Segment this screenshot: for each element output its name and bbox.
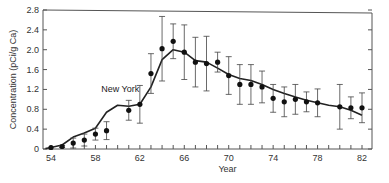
data-point [137, 102, 142, 107]
data-point [237, 82, 242, 87]
data-point [337, 104, 342, 109]
series-label-new-york: New York [101, 84, 140, 94]
x-tick-label: 74 [268, 153, 278, 163]
x-axis-title: Year [218, 164, 236, 174]
data-point [93, 132, 98, 137]
x-tick-label: 78 [313, 153, 323, 163]
plot-frame [43, 10, 372, 149]
y-tick-label: 1.6 [26, 65, 39, 75]
data-point [126, 108, 131, 113]
data-point [182, 50, 187, 55]
y-tick-label: 0 [34, 144, 39, 154]
x-tick-label: 54 [46, 153, 56, 163]
data-point [71, 140, 76, 145]
chart: 00.40.81.21.62.02.42.8 5458626670747882 … [0, 0, 389, 183]
x-tick-label: 58 [90, 153, 100, 163]
y-tick-label: 1.2 [26, 84, 39, 94]
data-point [204, 61, 209, 66]
y-tick-label: 2.4 [26, 25, 39, 35]
data-point [60, 144, 65, 149]
measured-points [48, 16, 365, 150]
y-tick-label: 2.0 [26, 45, 39, 55]
data-point [193, 60, 198, 65]
data-point [359, 105, 364, 110]
x-tick-label: 66 [179, 153, 189, 163]
data-point [48, 145, 53, 150]
y-tick-label: 0.8 [26, 104, 39, 114]
x-tick-label: 62 [135, 153, 145, 163]
data-point [271, 96, 276, 101]
y-tick-label: 2.8 [26, 5, 39, 15]
data-point [248, 82, 253, 87]
y-axis-title: Concentration (pCi/g Ca) [8, 30, 18, 130]
data-point [282, 99, 287, 104]
data-point [148, 71, 153, 76]
data-point [348, 105, 353, 110]
data-point [104, 128, 109, 133]
y-tick-label: 0.4 [26, 124, 39, 134]
x-axis: 5458626670747882 [46, 145, 367, 163]
data-point [215, 60, 220, 65]
data-point [293, 97, 298, 102]
x-tick-label: 70 [224, 153, 234, 163]
data-point [171, 39, 176, 44]
data-point [259, 84, 264, 89]
data-point [315, 100, 320, 105]
data-point [82, 137, 87, 142]
data-point [304, 99, 309, 104]
x-tick-label: 82 [357, 153, 367, 163]
data-point [159, 46, 164, 51]
data-point [226, 73, 231, 78]
y-axis: 00.40.81.21.62.02.42.8 [26, 5, 372, 154]
